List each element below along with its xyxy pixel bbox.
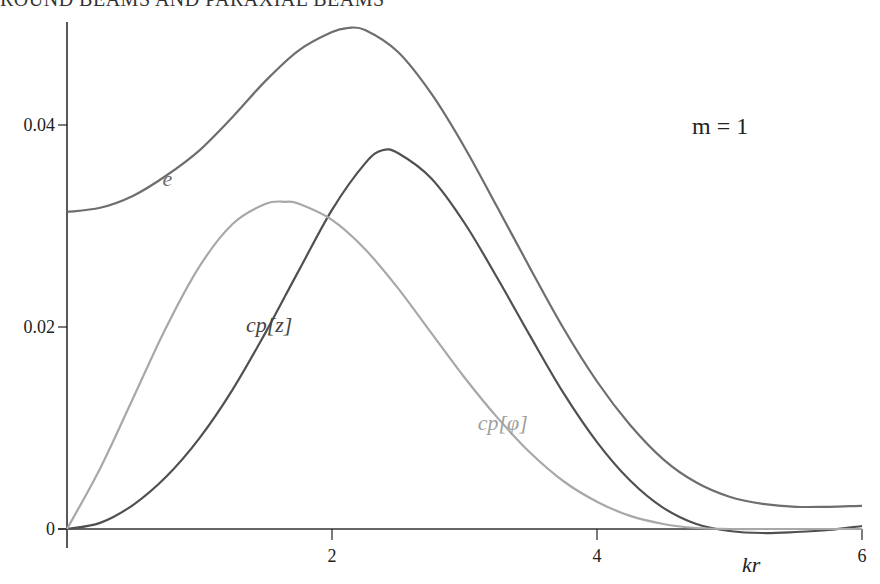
x-tick-label: 2	[328, 546, 337, 566]
curves	[67, 27, 862, 533]
y-tick-label: 0.02	[24, 317, 56, 337]
curve-label: cp[z]	[246, 312, 292, 337]
y-tick-label: 0	[46, 519, 55, 539]
m-annotation: m = 1	[692, 113, 748, 139]
x-axis-label: kr	[742, 552, 761, 577]
line-chart: 00.020.04 246 ecp[z]cp[φ] kr m = 1	[0, 0, 880, 584]
series-line-2	[67, 201, 862, 529]
x-ticks: 246	[328, 529, 867, 566]
axes	[58, 22, 862, 548]
series-line-1	[67, 149, 862, 533]
y-ticks: 00.020.04	[24, 115, 68, 539]
y-tick-label: 0.04	[24, 115, 56, 135]
x-tick-label: 6	[858, 546, 867, 566]
x-tick-label: 4	[593, 546, 602, 566]
series-line-0	[67, 27, 862, 507]
curve-label: e	[162, 166, 172, 191]
curve-label: cp[φ]	[478, 410, 528, 435]
curve-labels: ecp[z]cp[φ]	[162, 166, 527, 435]
